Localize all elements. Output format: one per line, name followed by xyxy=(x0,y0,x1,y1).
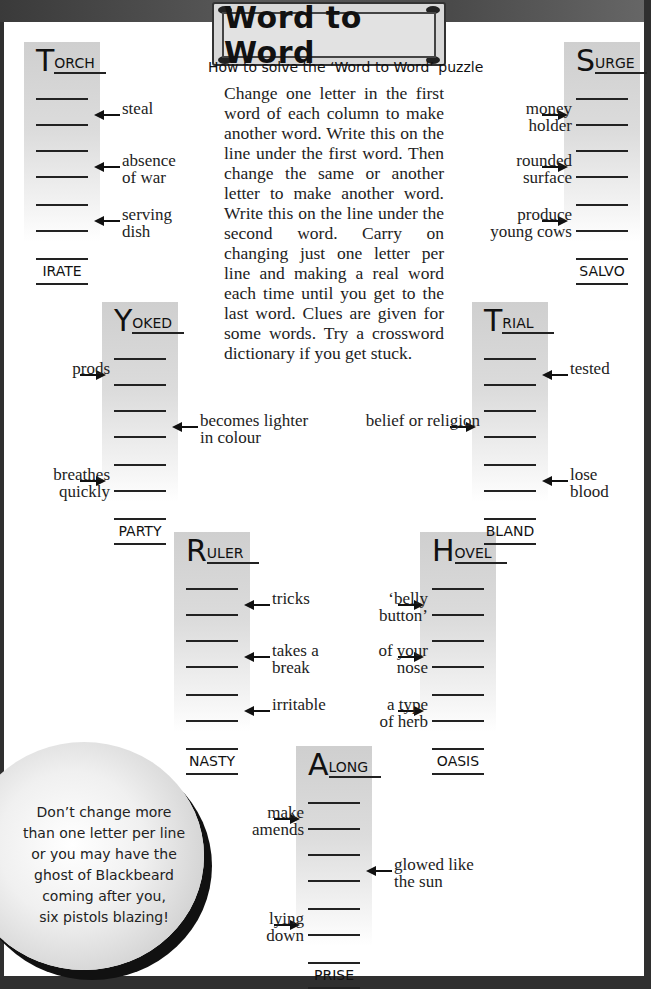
answer-line-5[interactable] xyxy=(186,694,238,696)
end-word: PRISE xyxy=(308,967,360,983)
end-word: SALVO xyxy=(576,263,628,279)
answer-line-2[interactable] xyxy=(186,614,238,616)
answer-line-6[interactable] xyxy=(576,230,628,232)
answer-line-2[interactable] xyxy=(308,828,360,830)
clue: loseblood xyxy=(570,466,609,500)
end-word: OASIS xyxy=(432,753,484,769)
clue: a typeof herb xyxy=(379,696,428,730)
clue: produceyoung cows xyxy=(490,206,572,240)
answer-line-3[interactable] xyxy=(576,150,628,152)
start-rest: ORCH xyxy=(54,55,106,74)
arrow-left-icon xyxy=(366,862,392,872)
answer-line-3[interactable] xyxy=(308,854,360,856)
arrow-left-icon xyxy=(244,702,270,712)
clue: irritable xyxy=(272,696,326,713)
answer-line-1[interactable] xyxy=(432,588,484,590)
answer-line-1[interactable] xyxy=(308,802,360,804)
answer-line-6[interactable] xyxy=(432,720,484,722)
clue: servingdish xyxy=(122,206,172,240)
start-rest: OVEL xyxy=(455,545,507,564)
answer-line-3[interactable] xyxy=(36,150,88,152)
answer-line-3[interactable] xyxy=(186,640,238,642)
start-word: HOVEL xyxy=(432,536,508,566)
answer-line-2[interactable] xyxy=(432,614,484,616)
divider xyxy=(484,518,536,520)
tip-line: ghost of Blackbeard xyxy=(4,865,204,886)
answer-line-1[interactable] xyxy=(114,358,166,360)
puzzle-column-along: ALONGPRISEmakeamendsglowed likethe sunly… xyxy=(308,750,384,780)
puzzle-page: Word to Word How to solve the ‘Word to W… xyxy=(4,22,644,976)
answer-line-2[interactable] xyxy=(484,384,536,386)
divider xyxy=(114,543,166,545)
divider xyxy=(186,748,238,750)
clue: glowed likethe sun xyxy=(394,856,474,890)
start-word: TORCH xyxy=(36,46,112,76)
start-rest: LONG xyxy=(329,759,381,778)
answer-line-2[interactable] xyxy=(576,124,628,126)
answer-line-3[interactable] xyxy=(484,410,536,412)
answer-line-2[interactable] xyxy=(114,384,166,386)
answer-line-4[interactable] xyxy=(576,176,628,178)
answer-line-5[interactable] xyxy=(484,464,536,466)
puzzle-column-hovel: HOVELOASIS‘bellybutton’of yournosea type… xyxy=(432,536,508,566)
answer-line-1[interactable] xyxy=(36,98,88,100)
divider xyxy=(432,773,484,775)
start-initial: T xyxy=(36,46,54,76)
clue: belief or religion xyxy=(366,412,480,429)
answer-line-1[interactable] xyxy=(576,98,628,100)
puzzle-column-ruler: RULERNASTYtrickstakes abreakirritable xyxy=(186,536,262,566)
divider xyxy=(308,962,360,964)
end-word: IRATE xyxy=(36,263,88,279)
answer-line-4[interactable] xyxy=(186,666,238,668)
tip-line: Don’t change more xyxy=(4,802,204,823)
puzzle-column-yoked: YOKEDPARTYprodsbecomes lighterin colourb… xyxy=(114,306,190,336)
answer-line-4[interactable] xyxy=(484,436,536,438)
answer-line-6[interactable] xyxy=(186,720,238,722)
answer-line-4[interactable] xyxy=(308,880,360,882)
arrow-left-icon xyxy=(94,158,120,168)
tip-line: coming after you, xyxy=(4,886,204,907)
start-initial: R xyxy=(186,536,207,566)
clue: of yournose xyxy=(378,642,428,676)
start-initial: S xyxy=(576,46,595,76)
answer-line-3[interactable] xyxy=(432,640,484,642)
end-word: PARTY xyxy=(114,523,166,539)
answer-line-6[interactable] xyxy=(36,230,88,232)
answer-line-1[interactable] xyxy=(484,358,536,360)
divider xyxy=(36,258,88,260)
divider xyxy=(576,283,628,285)
answer-line-6[interactable] xyxy=(308,934,360,936)
answer-line-4[interactable] xyxy=(432,666,484,668)
answer-line-5[interactable] xyxy=(36,204,88,206)
instructions-text: Change one letter in the first word of e… xyxy=(224,83,444,363)
answer-line-6[interactable] xyxy=(114,490,166,492)
divider xyxy=(114,518,166,520)
start-word: SURGE xyxy=(576,46,651,76)
answer-line-5[interactable] xyxy=(308,908,360,910)
answer-line-5[interactable] xyxy=(114,464,166,466)
answer-line-4[interactable] xyxy=(114,436,166,438)
divider xyxy=(576,258,628,260)
clue: becomes lighterin colour xyxy=(200,412,308,446)
tip-line: six pistols blazing! xyxy=(4,907,204,928)
divider xyxy=(186,773,238,775)
tip-line: or you may have the xyxy=(4,844,204,865)
answer-line-1[interactable] xyxy=(186,588,238,590)
answer-line-6[interactable] xyxy=(484,490,536,492)
clue: absenceof war xyxy=(122,152,176,186)
tip-text: Don’t change more than one letter per li… xyxy=(4,802,204,928)
answer-line-2[interactable] xyxy=(36,124,88,126)
puzzle-column-torch: TORCHIRATEstealabsenceof warservingdish xyxy=(36,46,112,76)
answer-line-3[interactable] xyxy=(114,410,166,412)
clue: ‘bellybutton’ xyxy=(379,590,428,624)
start-initial: T xyxy=(484,306,502,336)
answer-line-5[interactable] xyxy=(576,204,628,206)
start-word: ALONG xyxy=(308,750,384,780)
answer-line-5[interactable] xyxy=(432,694,484,696)
divider xyxy=(432,748,484,750)
divider xyxy=(36,283,88,285)
clue: roundedsurface xyxy=(516,152,572,186)
arrow-left-icon xyxy=(542,472,568,482)
answer-line-4[interactable] xyxy=(36,176,88,178)
arrow-left-icon xyxy=(244,596,270,606)
